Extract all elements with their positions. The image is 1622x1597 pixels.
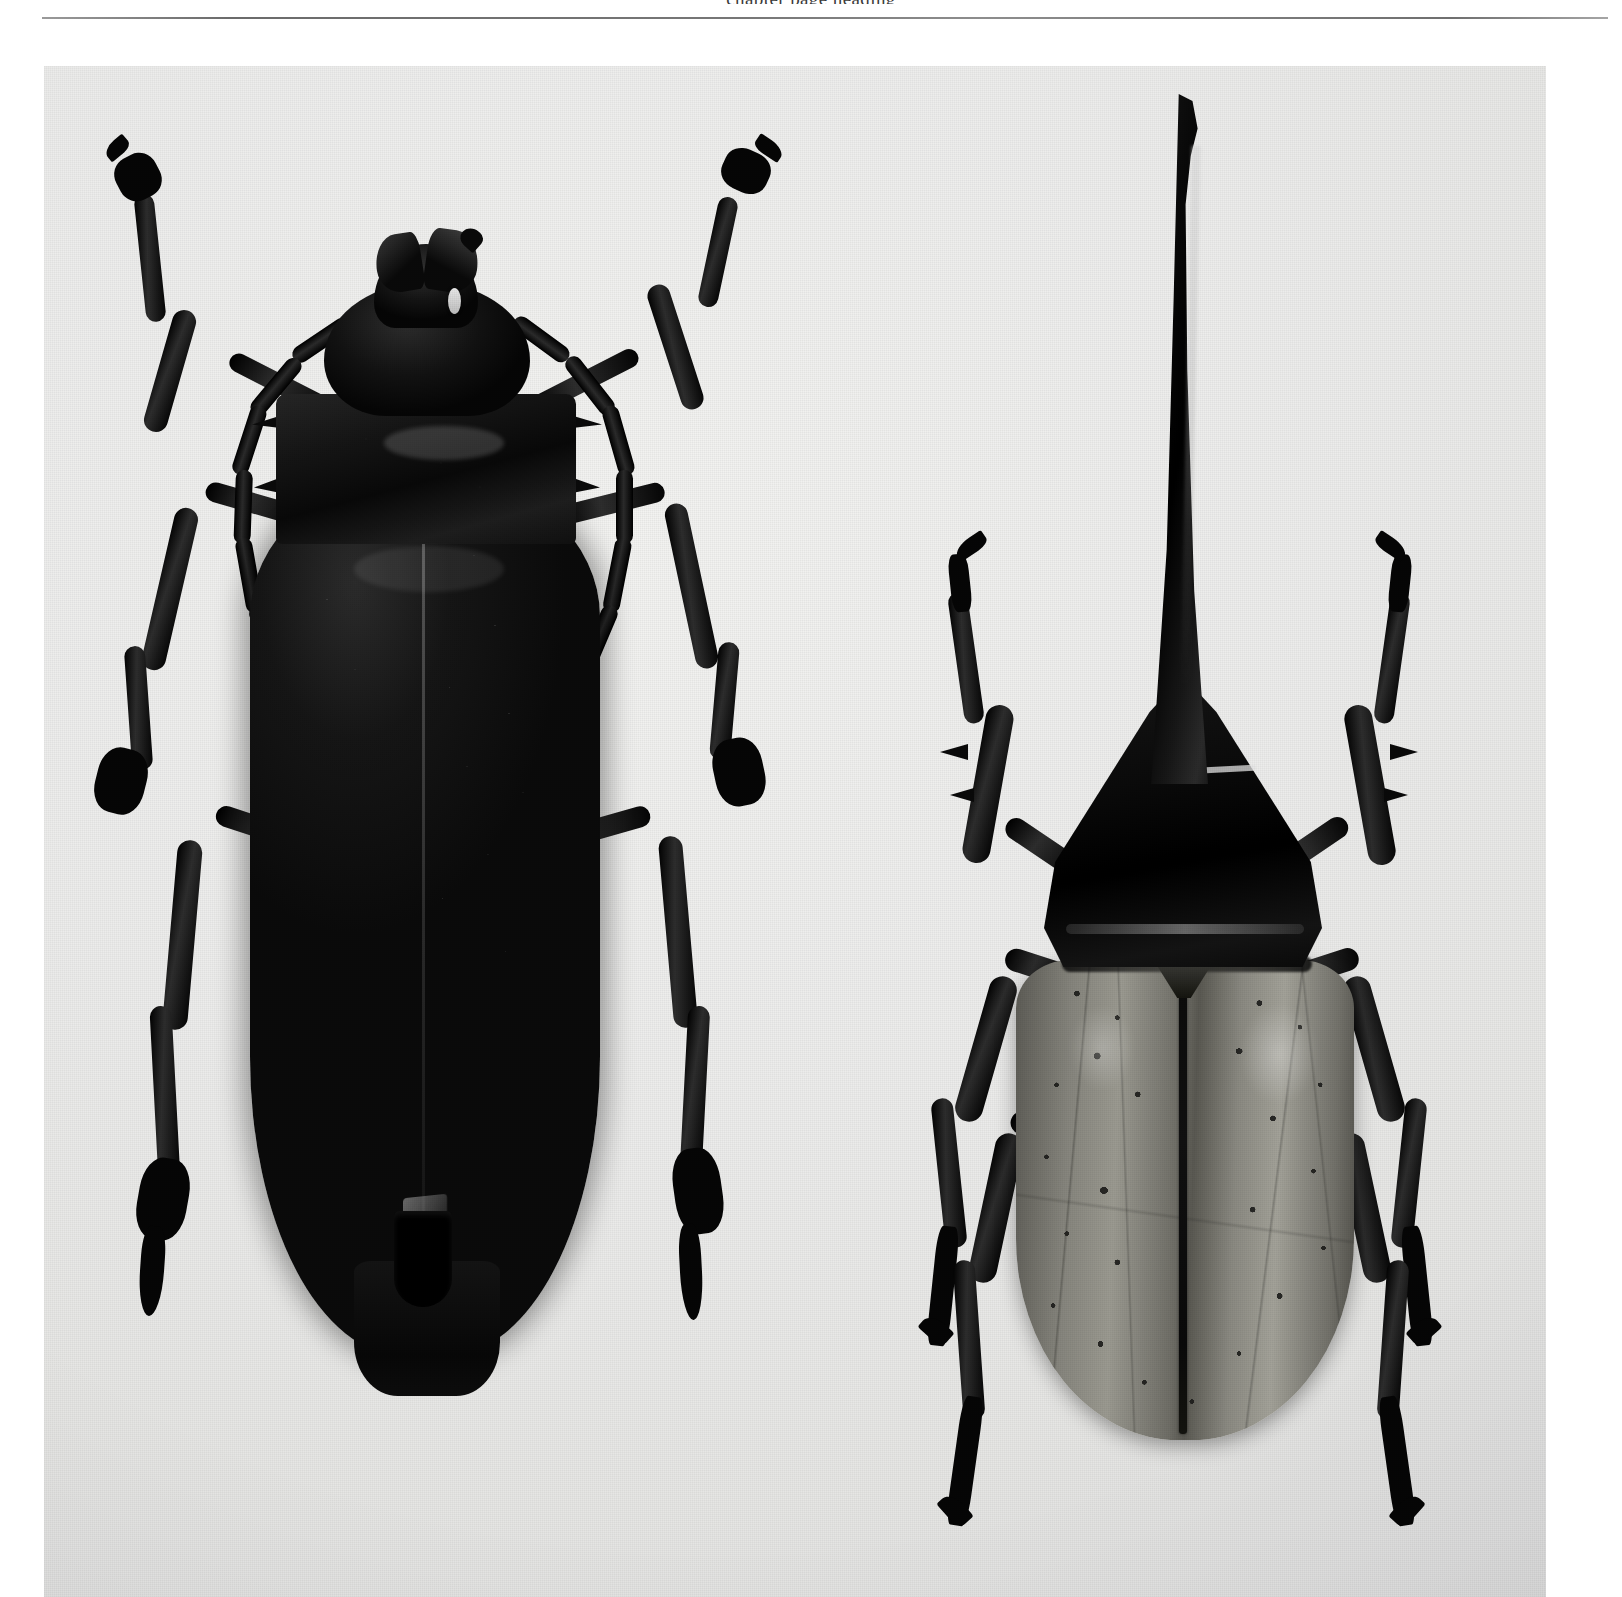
femur-mid-left xyxy=(140,505,201,672)
femur-fore-left-hercules xyxy=(960,703,1015,865)
elytral-suture-longhorn xyxy=(422,496,425,1296)
antenna-left-seg4 xyxy=(233,470,253,545)
elytra-apical-gap xyxy=(394,1211,452,1307)
tibial-spine-fore-right-2 xyxy=(1384,788,1408,802)
antenna-left-seg3 xyxy=(230,403,268,477)
tibial-spine-fore-left-2 xyxy=(950,788,974,802)
tibia-fore-right xyxy=(697,195,740,309)
femur-fore-left xyxy=(141,307,199,435)
femur-hind-left xyxy=(162,839,203,1030)
femur-hind-right xyxy=(658,835,699,1028)
antenna-right-seg3 xyxy=(600,404,636,478)
tarsus-hind-right xyxy=(668,1145,728,1237)
specimen-longhorn-beetle xyxy=(54,76,814,1576)
beetle-plate-photograph xyxy=(44,66,1546,1597)
tarsus-mid-right xyxy=(707,734,770,811)
running-header: chapter page heading xyxy=(0,0,1622,4)
elytra-highlight xyxy=(354,546,504,592)
claw-hind-left xyxy=(137,1225,167,1316)
antenna-right-seg4 xyxy=(616,470,633,544)
femur-mid-right xyxy=(663,501,720,670)
claw-hind-right xyxy=(678,1223,705,1320)
elytra-highlight-left xyxy=(1056,988,1148,1108)
tibia-fore-left xyxy=(133,193,166,322)
compound-eye xyxy=(448,288,461,314)
antenna-right-seg5 xyxy=(602,536,633,614)
specimen-hercules-beetle xyxy=(804,76,1544,1576)
tibial-spine-fore-left xyxy=(940,744,968,760)
femur-mid-left-hercules xyxy=(952,973,1020,1125)
femur-fore-right-hercules xyxy=(1342,703,1398,867)
elytral-suture-hercules xyxy=(1179,982,1187,1434)
tibial-spine-fore-right xyxy=(1390,744,1418,760)
claw-fore-left-hercules xyxy=(952,530,989,562)
elytra-highlight-right xyxy=(1224,984,1334,1124)
femur-fore-right xyxy=(644,282,706,413)
scanned-page: chapter page heading xyxy=(0,0,1622,1597)
pronotum-posterior-rim xyxy=(1066,924,1304,934)
header-rule xyxy=(42,17,1608,19)
pronotum-longhorn xyxy=(276,394,576,544)
pronotum-highlight xyxy=(384,426,504,460)
plate-caption xyxy=(44,66,45,67)
thoracic-horn-hercules xyxy=(1134,94,1220,784)
